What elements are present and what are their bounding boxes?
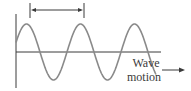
arrow-head-left-icon	[31, 8, 36, 12]
wave-motion-label-line2: motion	[124, 71, 164, 84]
wavelength-marker	[30, 3, 84, 18]
wave-motion-label-line1: Wave	[126, 57, 166, 70]
arrow-right-icon	[179, 68, 185, 73]
arrow-head-right-icon	[78, 8, 83, 12]
